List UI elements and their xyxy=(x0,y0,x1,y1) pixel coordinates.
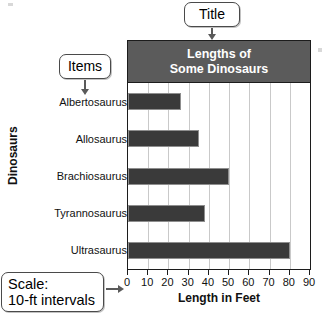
x-tick-label-20: 20 xyxy=(157,276,177,288)
y-axis-title: Dinosaurs xyxy=(6,126,20,185)
callout-title[interactable]: Title xyxy=(184,2,240,27)
callout-title-label: Title xyxy=(199,7,225,23)
category-label-tyrannosaurus: Tyrannosaurus xyxy=(54,207,127,219)
category-label-albertosaurus: Albertosaurus xyxy=(59,96,127,108)
x-tick-label-50: 50 xyxy=(218,276,238,288)
x-tick-label-0: 0 xyxy=(117,276,137,288)
x-axis-title: Length in Feet xyxy=(127,291,311,305)
x-tick-label-40: 40 xyxy=(198,276,218,288)
bar-ultrasaurus xyxy=(128,242,290,259)
x-tick-label-80: 80 xyxy=(279,276,299,288)
category-label-ultrasaurus: Ultrasaurus xyxy=(71,244,127,256)
callout-scale-line2: 10-ft intervals xyxy=(8,292,95,308)
chart-title-line-2: Some Dinosaurs xyxy=(170,62,269,76)
x-tick-90 xyxy=(309,270,310,275)
x-tick-80 xyxy=(289,270,290,275)
gridline-80 xyxy=(290,83,291,269)
x-tick-70 xyxy=(269,270,270,275)
bar-albertosaurus xyxy=(128,93,181,110)
x-tick-label-70: 70 xyxy=(259,276,279,288)
category-label-brachiosaurus: Brachiosaurus xyxy=(57,170,127,182)
x-tick-label-10: 10 xyxy=(137,276,157,288)
x-tick-label-30: 30 xyxy=(178,276,198,288)
x-tick-label-60: 60 xyxy=(238,276,258,288)
x-tick-40 xyxy=(208,270,209,275)
chart-title-line-1: Lengths of xyxy=(187,47,251,61)
x-tick-0 xyxy=(127,270,128,275)
x-tick-label-90: 90 xyxy=(299,276,319,288)
bar-brachiosaurus xyxy=(128,168,229,185)
callout-items[interactable]: Items xyxy=(59,54,111,79)
x-tick-30 xyxy=(188,270,189,275)
scan-speck xyxy=(318,48,322,52)
x-tick-50 xyxy=(228,270,229,275)
category-label-allosaurus: Allosaurus xyxy=(76,133,127,145)
bar-tyrannosaurus xyxy=(128,205,205,222)
callout-items-label: Items xyxy=(68,59,102,75)
worksheet-diagram: Title Items Scale: 10-ft intervals Dinos… xyxy=(0,0,325,327)
x-tick-20 xyxy=(167,270,168,275)
bar-allosaurus xyxy=(128,130,199,147)
plot-area xyxy=(128,83,310,269)
chart-title: Lengths of Some Dinosaurs xyxy=(128,41,310,83)
scan-speck xyxy=(8,3,13,6)
callout-scale-line1: Scale: xyxy=(8,276,48,292)
x-tick-60 xyxy=(248,270,249,275)
chart-frame: Lengths of Some Dinosaurs xyxy=(127,40,311,270)
callout-scale[interactable]: Scale: 10-ft intervals xyxy=(1,272,104,312)
x-tick-10 xyxy=(147,270,148,275)
